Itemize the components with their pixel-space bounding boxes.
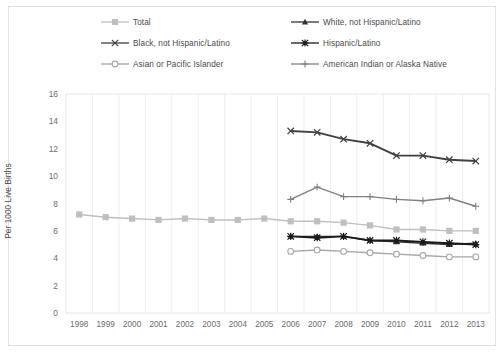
x-axis-ticks: 1998199920002001200220032004200520062007…	[0, 0, 504, 353]
chart-figure: TotalWhite, not Hispanic/LatinoBlack, no…	[0, 0, 504, 353]
y-axis-title: Per 1000 Live Births	[3, 131, 13, 271]
plot-area-wrapper: 0246810121416 19981999200020012002200320…	[0, 0, 504, 353]
x-axis-tick-label: 2013	[460, 321, 492, 329]
